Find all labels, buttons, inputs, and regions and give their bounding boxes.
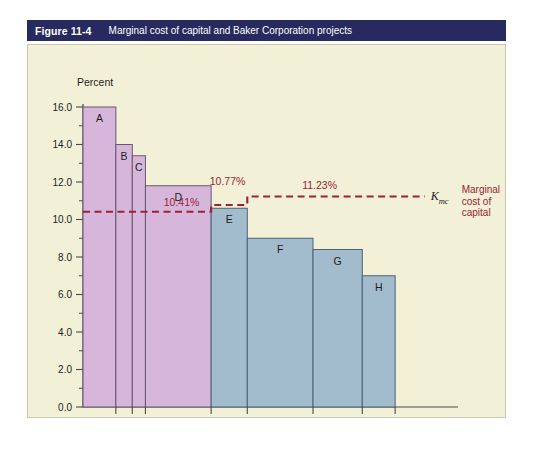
y-axis-tick-label: 0.0 — [58, 402, 72, 413]
bar-label: E — [226, 213, 233, 225]
mcc-value-label: 10.41% — [164, 196, 200, 208]
chart-panel: Percent0.02.04.06.08.010.012.014.016.0AB… — [27, 44, 506, 418]
bar-label: C — [135, 161, 143, 173]
chart-bar — [83, 107, 116, 407]
y-axis-tick-label: 12.0 — [53, 177, 73, 188]
chart-bar — [116, 145, 132, 408]
figure-number: Figure 11-4 — [35, 25, 92, 37]
chart-plot-area: Percent0.02.04.06.08.010.012.014.016.0AB… — [28, 45, 505, 417]
chart-bar — [145, 186, 211, 407]
mcc-value-label: 11.23% — [302, 179, 337, 191]
bar-label: H — [375, 281, 383, 293]
chart-bar — [313, 250, 362, 408]
legend-label: capital — [462, 207, 491, 218]
y-axis-title: Percent — [77, 76, 113, 88]
y-axis-tick-label: 6.0 — [58, 289, 72, 300]
mcc-value-label: 10.77% — [210, 175, 246, 187]
bar-chart: Percent0.02.04.06.08.010.012.014.016.0AB… — [28, 45, 505, 417]
bar-label: A — [96, 112, 103, 124]
y-axis-tick-label: 2.0 — [58, 364, 72, 375]
legend-label: cost of — [462, 196, 492, 207]
bar-label: B — [121, 150, 128, 162]
chart-bar — [132, 156, 145, 407]
y-axis-tick-label: 16.0 — [53, 102, 73, 113]
kmc-symbol: Kmc — [430, 189, 449, 205]
figure-caption: Marginal cost of capital and Baker Corpo… — [109, 25, 352, 36]
chart-bar — [247, 238, 313, 407]
chart-bar — [211, 208, 247, 407]
y-axis-tick-label: 8.0 — [58, 252, 72, 263]
legend-label: Marginal — [462, 184, 500, 195]
figure-title-bar: Figure 11-4 Marginal cost of capital and… — [27, 20, 506, 41]
chart-bar — [362, 276, 395, 407]
bar-label: F — [277, 243, 283, 255]
y-axis-tick-label: 10.0 — [53, 214, 73, 225]
figure-container: Figure 11-4 Marginal cost of capital and… — [27, 20, 506, 418]
bar-label: G — [334, 255, 342, 267]
y-axis-tick-label: 14.0 — [53, 139, 73, 150]
y-axis-tick-label: 4.0 — [58, 327, 72, 338]
